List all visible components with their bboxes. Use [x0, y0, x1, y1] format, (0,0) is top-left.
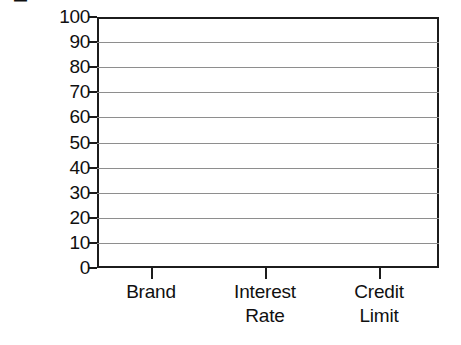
- x-axis-category-label-line: Credit: [304, 280, 454, 304]
- y-axis-tick-label: 60: [40, 106, 90, 128]
- y-axis-tick-mark: [88, 66, 97, 68]
- y-axis-tick-label: 70: [40, 81, 90, 103]
- y-axis-tick-mark: [88, 16, 97, 18]
- gridline: [97, 168, 439, 169]
- gridline: [97, 143, 439, 144]
- y-axis-title: Importance (percent): [4, 0, 38, 46]
- y-axis-tick-label: 50: [40, 132, 90, 154]
- gridline: [97, 92, 439, 93]
- plot-top-border: [97, 17, 439, 19]
- y-axis-tick-label: 40: [40, 157, 90, 179]
- y-axis-tick-mark: [88, 242, 97, 244]
- y-axis-tick-mark: [88, 91, 97, 93]
- gridline: [97, 193, 439, 194]
- gridline: [97, 243, 439, 244]
- y-axis-tick-mark: [88, 217, 97, 219]
- gridline: [97, 67, 439, 68]
- x-axis-category-label: CreditLimit: [304, 280, 454, 328]
- y-axis-tick-mark: [88, 267, 97, 269]
- x-axis-category-label-line: Limit: [304, 304, 454, 328]
- y-axis-tick-label: 0: [40, 257, 90, 279]
- x-axis-tick-mark: [379, 268, 381, 279]
- x-axis-tick-mark: [151, 268, 153, 279]
- y-axis-tick-label: 30: [40, 182, 90, 204]
- plot-area: [97, 17, 439, 268]
- gridline: [97, 218, 439, 219]
- y-axis-tick-label: 20: [40, 207, 90, 229]
- y-axis-tick-mark: [88, 116, 97, 118]
- y-axis-tick-mark: [88, 192, 97, 194]
- chart-figure: Importance (percent) 0102030405060708090…: [0, 0, 461, 345]
- y-axis-tick-label: 100: [40, 6, 90, 28]
- y-axis-tick-label: 10: [40, 232, 90, 254]
- y-axis-tick-mark: [88, 167, 97, 169]
- y-axis-tick-mark: [88, 142, 97, 144]
- y-axis-tick-label: 90: [40, 31, 90, 53]
- gridline: [97, 117, 439, 118]
- y-axis-tick-label: 80: [40, 56, 90, 78]
- gridline: [97, 42, 439, 43]
- y-axis-tick-mark: [88, 41, 97, 43]
- x-axis-line: [97, 266, 439, 268]
- x-axis-tick-mark: [265, 268, 267, 279]
